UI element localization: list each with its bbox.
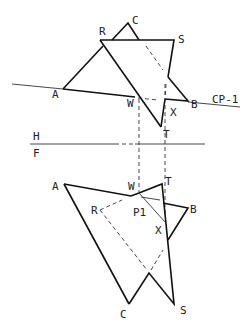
- label-fold-f: F: [33, 147, 40, 160]
- front-edge-cx-hidden: [151, 250, 163, 270]
- top-edge-rs-st: [100, 40, 174, 77]
- front-edge-rw-hidden: [100, 200, 122, 210]
- label-front-b: B: [190, 203, 197, 216]
- label-top-s: S: [178, 33, 185, 46]
- label-front-c: C: [120, 308, 127, 320]
- top-edge-rt: [100, 40, 161, 127]
- top-edge-st: [161, 99, 165, 127]
- label-front-p1: P1: [133, 206, 146, 219]
- top-edge-ac: [63, 46, 103, 89]
- label-top-r: R: [99, 25, 106, 38]
- front-edge-rst: [129, 184, 174, 304]
- label-front-r: R: [91, 204, 98, 217]
- label-front-x: X: [155, 224, 162, 237]
- front-edge-rc-hidden: [100, 210, 147, 270]
- label-front-w: W: [128, 180, 135, 193]
- top-edge-cb-hidden: [146, 46, 163, 70]
- label-top-x: X: [170, 106, 177, 119]
- label-front-a: A: [52, 180, 59, 193]
- label-front-s: S: [180, 304, 187, 317]
- label-top-c: C: [132, 14, 139, 27]
- label-top-b: B: [191, 98, 198, 111]
- label-top-t: T: [163, 128, 170, 141]
- label-cp1: CP-1: [212, 93, 239, 106]
- label-fold-h: H: [33, 130, 40, 143]
- front-edge-ac: [64, 184, 129, 304]
- top-edge-ab-left: [63, 89, 135, 97]
- label-front-t: T: [165, 175, 172, 188]
- label-top-a: A: [52, 88, 59, 101]
- label-top-w: W: [127, 97, 134, 110]
- drawing: C R S A B W X T CP-1 H F A W T B R P1 X …: [0, 0, 249, 320]
- top-edge-cb: [165, 77, 188, 101]
